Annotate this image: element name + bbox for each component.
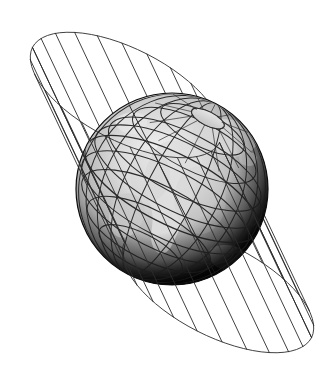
figure-canvas: A wireframe cylinder drawn around a shad… [0, 0, 333, 377]
globe-cylinder-illustration [0, 0, 333, 377]
